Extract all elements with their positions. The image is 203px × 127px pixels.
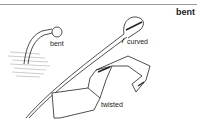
ground-hatching-icon	[8, 52, 50, 77]
label-twisted: twisted	[101, 101, 123, 108]
label-bent: bent	[50, 40, 64, 47]
twisted-ribbon-icon	[52, 56, 150, 118]
label-curved: curved	[127, 38, 148, 45]
